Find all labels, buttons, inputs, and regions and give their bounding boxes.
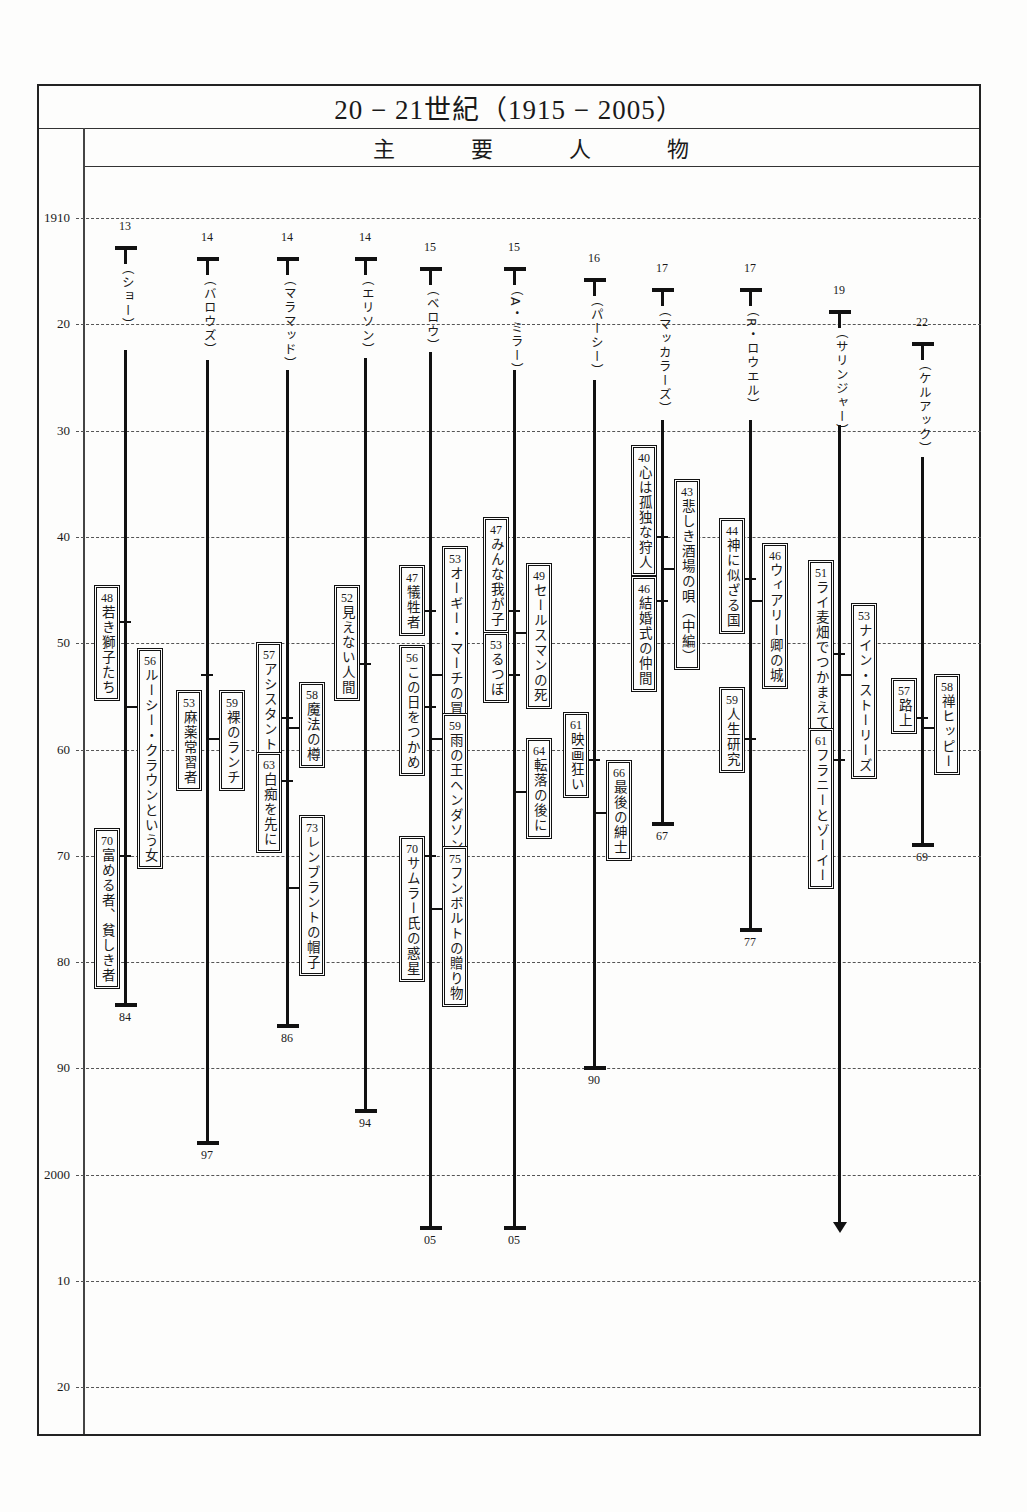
work-box: 53オーギー・マーチの冒険 — [442, 546, 468, 737]
work-connector — [359, 663, 371, 665]
y-tick-label: 20 — [40, 1379, 70, 1395]
work-connector — [916, 717, 928, 719]
work-box: 48若き獅子たち — [94, 585, 120, 701]
work-connector — [833, 759, 845, 761]
work-year: 70 — [101, 834, 113, 848]
person-name: （マッカラーズ） — [657, 304, 670, 416]
work-title: 心は孤独な狩人 — [637, 465, 651, 570]
work-box: 63白痴を先に — [256, 752, 282, 853]
person-name: （ケルアック） — [917, 358, 930, 456]
work-year: 59 — [449, 719, 461, 733]
work-box: 53麻薬常習者 — [176, 690, 202, 791]
work-year: 46 — [769, 549, 781, 563]
work-year: 40 — [638, 451, 650, 465]
y-tick-label: 80 — [40, 954, 70, 970]
work-connector — [656, 600, 668, 602]
work-year: 53 — [490, 638, 502, 652]
work-connector — [281, 780, 293, 782]
work-year: 52 — [341, 591, 353, 605]
work-connector — [125, 706, 137, 708]
work-title: みんな我が子 — [489, 537, 503, 627]
work-connector — [514, 791, 526, 793]
lifeline — [749, 420, 753, 930]
work-box: 75フンボルトの贈り物 — [442, 846, 468, 1007]
birth-year-label: 14 — [201, 230, 213, 245]
work-year: 57 — [898, 684, 910, 698]
work-title: ルーシー・クラウンという女 — [143, 668, 157, 863]
y-tick-label: 60 — [40, 742, 70, 758]
work-box: 59人生研究 — [719, 687, 745, 773]
work-year: 70 — [406, 842, 418, 856]
work-connector — [508, 674, 520, 676]
work-box: 59雨の王ヘンダソン — [442, 713, 468, 859]
work-box: 70サムラー氏の惑星 — [399, 836, 425, 982]
work-title: ウィアリー卿の城 — [768, 563, 782, 683]
work-connector — [594, 812, 606, 814]
work-connector — [922, 727, 934, 729]
work-box: 61フラニーとゾーイー — [808, 728, 834, 889]
person-name: （サリンジャー） — [834, 326, 847, 438]
work-year: 47 — [406, 571, 418, 585]
person-name: （R・ロウエル） — [745, 304, 758, 412]
living-arrow — [833, 1222, 847, 1233]
work-title: 人生研究 — [725, 707, 739, 767]
person-name: （マラマッド） — [282, 273, 295, 371]
y-tick-label: 20 — [40, 316, 70, 332]
y-tick-label: 90 — [40, 1060, 70, 1076]
work-connector — [287, 887, 299, 889]
work-connector — [201, 674, 213, 676]
work-title: ナイン・ストーリーズ — [857, 623, 871, 773]
death-year-label: 67 — [656, 829, 668, 844]
death-year-label: 77 — [744, 935, 756, 950]
work-year: 43 — [681, 485, 693, 499]
work-year: 57 — [263, 648, 275, 662]
lifeline — [124, 350, 128, 1005]
work-title: 白痴を先に — [262, 772, 276, 847]
death-year-label: 69 — [916, 850, 928, 865]
work-title: 魔法の樽 — [305, 702, 319, 762]
work-connector — [833, 653, 845, 655]
death-year-label: 86 — [281, 1031, 293, 1046]
y-tick-label: 40 — [40, 529, 70, 545]
work-year: 53 — [449, 552, 461, 566]
work-year: 44 — [726, 524, 738, 538]
work-box: 61映画狂い — [563, 712, 589, 798]
work-box: 40心は孤独な狩人 — [631, 445, 657, 576]
work-title: ライ麦畑でつかまえて — [814, 580, 828, 730]
work-connector — [207, 738, 219, 740]
work-box: 66最後の紳士 — [606, 760, 632, 861]
work-box: 57路上 — [891, 678, 917, 734]
birth-year-label: 17 — [656, 261, 668, 276]
grid-line — [76, 1068, 981, 1069]
grid-line — [76, 218, 981, 219]
lifeline — [429, 352, 433, 1228]
work-box: 58魔法の樽 — [299, 682, 325, 768]
work-title: 裸のランチ — [225, 710, 239, 785]
work-connector — [656, 536, 668, 538]
work-year: 63 — [263, 758, 275, 772]
work-year: 58 — [941, 680, 953, 694]
work-box: 58禅ヒッピー — [934, 674, 960, 775]
y-tick-label: 1910 — [40, 210, 70, 226]
work-connector — [430, 738, 442, 740]
work-year: 46 — [638, 582, 650, 596]
work-box: 57アシスタント — [256, 642, 282, 758]
work-box: 70富める者、貧しき者 — [94, 828, 120, 989]
work-title: サムラー氏の惑星 — [405, 856, 419, 976]
work-connector — [839, 674, 851, 676]
work-title: 最後の紳士 — [612, 780, 626, 855]
work-title: 富める者、貧しき者 — [100, 848, 114, 983]
work-title: 禅ヒッピー — [940, 694, 954, 769]
work-year: 59 — [226, 696, 238, 710]
work-box: 53ナイン・ストーリーズ — [851, 603, 877, 779]
grid-line — [76, 962, 981, 963]
work-title: 路上 — [897, 698, 911, 728]
chart-title: 20 − 21世紀（1915 − 2005） — [39, 86, 979, 129]
work-year: 56 — [144, 654, 156, 668]
work-year: 59 — [726, 693, 738, 707]
work-title: 見えない人間 — [340, 605, 354, 695]
work-box: 46結婚式の仲間 — [631, 576, 657, 692]
work-box: 64転落の後に — [526, 738, 552, 839]
grid-line — [76, 1281, 981, 1282]
work-title: フラニーとゾーイー — [814, 748, 828, 883]
